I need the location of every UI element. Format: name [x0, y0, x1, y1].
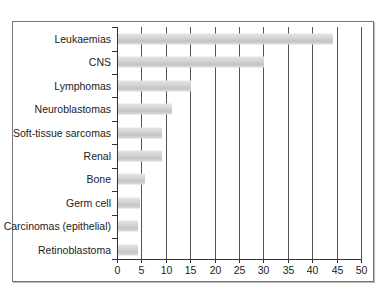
bar-carcinomas-epithelial	[118, 221, 138, 232]
x-tick-label: 40	[303, 264, 323, 276]
bar-neuroblastomas	[118, 104, 172, 115]
y-tick	[112, 51, 117, 52]
gridline	[361, 27, 362, 259]
bar-retinoblastoma	[118, 244, 138, 255]
x-tick-label: 35	[279, 264, 299, 276]
category-label: Leukaemias	[54, 33, 111, 45]
x-tick-label: 45	[328, 264, 348, 276]
y-tick	[112, 215, 117, 216]
x-tick-label: 10	[157, 264, 177, 276]
y-tick	[112, 121, 117, 122]
category-label: Soft-tissue sarcomas	[13, 127, 111, 139]
y-tick	[112, 238, 117, 239]
y-tick	[112, 74, 117, 75]
bar-cns	[118, 57, 264, 68]
category-label: CNS	[89, 56, 111, 68]
bar-lymphomas	[118, 80, 191, 91]
gridline	[312, 27, 313, 259]
category-label: Renal	[84, 150, 111, 162]
gridline	[337, 27, 338, 259]
category-label: Lymphomas	[54, 80, 111, 92]
bar-germ-cell	[118, 197, 140, 208]
x-tick-label: 0	[108, 264, 128, 276]
y-tick	[112, 144, 117, 145]
bar-bone	[118, 174, 145, 185]
x-tick-label: 50	[352, 264, 372, 276]
y-tick	[112, 191, 117, 192]
y-tick	[112, 259, 117, 260]
x-axis-line	[117, 259, 362, 260]
y-tick	[112, 97, 117, 98]
x-tick-label: 15	[181, 264, 201, 276]
x-tick-label: 30	[254, 264, 274, 276]
y-tick	[112, 27, 117, 28]
category-label: Retinoblastoma	[38, 244, 111, 256]
bar-renal	[118, 151, 162, 162]
x-tick-label: 25	[230, 264, 250, 276]
bar-soft-tissue-sarcomas	[118, 127, 162, 138]
gridline	[288, 27, 289, 259]
x-tick-label: 20	[206, 264, 226, 276]
x-tick-label: 5	[132, 264, 152, 276]
y-tick	[112, 168, 117, 169]
category-label: Carcinomas (epithelial)	[4, 220, 111, 232]
bar-leukaemias	[118, 34, 333, 45]
category-label: Germ cell	[66, 197, 111, 209]
category-label: Bone	[86, 173, 111, 185]
category-label: Neuroblastomas	[35, 103, 111, 115]
